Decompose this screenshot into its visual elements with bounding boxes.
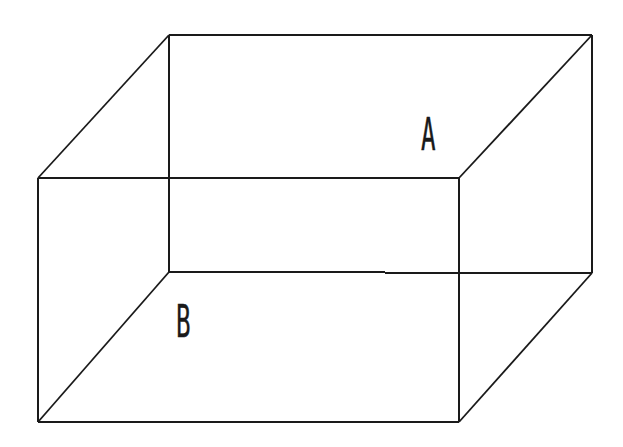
edge-back-bottom bbox=[169, 272, 592, 273]
depth-edges bbox=[38, 35, 592, 422]
front-face bbox=[38, 178, 459, 422]
back-face bbox=[169, 35, 592, 273]
edge-depth-top-left bbox=[38, 35, 169, 178]
label-a: A bbox=[421, 113, 436, 157]
edge-depth-bottom-left bbox=[38, 272, 169, 422]
cuboid-diagram bbox=[0, 0, 623, 447]
label-b: B bbox=[176, 300, 191, 344]
edge-depth-bottom-right bbox=[459, 273, 592, 422]
edge-depth-top-right bbox=[459, 35, 592, 178]
